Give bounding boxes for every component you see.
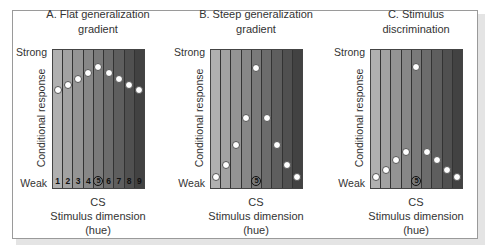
hue-stripe: [371, 50, 381, 188]
data-point: [64, 81, 72, 89]
hue-stripe: [272, 50, 282, 188]
hue-stripe: 6: [104, 50, 114, 188]
cs-marker: 5: [411, 176, 421, 186]
y-axis-label: Conditional response: [353, 53, 365, 183]
hue-stripe: 2: [63, 50, 73, 188]
hue-stripe: 1: [53, 50, 63, 188]
data-point: [115, 75, 123, 83]
hue-stripe: 8: [125, 50, 135, 188]
x-label-hue: (hue): [346, 223, 486, 237]
data-point: [443, 166, 451, 174]
x-label-cs: CS: [28, 195, 168, 209]
panel-title-line-2: gradient: [186, 22, 326, 37]
hue-stripe: 3: [73, 50, 83, 188]
stimulus-number: 8: [125, 176, 134, 186]
x-label-hue: (hue): [186, 223, 326, 237]
panel-title: A. Flat generalizationgradient: [28, 7, 168, 37]
hue-stripe: [422, 50, 432, 188]
hue-stripe: [432, 50, 442, 188]
hue-stripe: [443, 50, 453, 188]
x-label-hue: (hue): [28, 223, 168, 237]
stimulus-number: 7: [114, 176, 123, 186]
stimulus-number: 9: [135, 176, 144, 186]
cs-marker: 5: [251, 176, 261, 186]
x-label-dimension: Stimulus dimension: [28, 209, 168, 223]
data-point: [433, 156, 441, 164]
data-point: [293, 173, 301, 181]
data-point: [402, 148, 410, 156]
panel-title-line-1: A. Flat generalization: [28, 7, 168, 22]
hue-stripe: [283, 50, 293, 188]
data-point: [222, 161, 230, 169]
hue-stripe: [453, 50, 462, 188]
plot-area: 5: [370, 49, 463, 189]
stimulus-number: 1: [53, 176, 62, 186]
plot-area: 123456789: [52, 49, 145, 189]
x-label-cs: CS: [186, 195, 326, 209]
data-point: [242, 114, 250, 122]
hue-stripe: 5: [252, 50, 262, 188]
data-point: [423, 148, 431, 156]
y-axis-label: Conditional response: [35, 53, 47, 183]
hue-stripe: 5: [94, 50, 104, 188]
stimulus-number: 3: [73, 176, 82, 186]
panel-title-line-2: gradient: [28, 22, 168, 37]
panel-title-line-1: B. Steep generalization: [186, 7, 326, 22]
data-point: [283, 161, 291, 169]
data-point: [105, 69, 113, 77]
hue-stripe: [221, 50, 231, 188]
hue-stripe: [391, 50, 401, 188]
hue-stripe: [402, 50, 412, 188]
panel-title-line-2: discrimination: [346, 22, 486, 37]
plot-area: 5: [210, 49, 303, 189]
hue-stripe: [262, 50, 272, 188]
x-label-dimension: Stimulus dimension: [186, 209, 326, 223]
data-point: [263, 114, 271, 122]
hue-stripe: 4: [84, 50, 94, 188]
hue-stripe: [231, 50, 241, 188]
data-point: [212, 173, 220, 181]
data-point: [232, 141, 240, 149]
hue-stripe: 9: [135, 50, 144, 188]
data-point: [125, 81, 133, 89]
stimulus-number: 4: [84, 176, 93, 186]
cs-marker: 5: [93, 176, 103, 186]
data-point: [372, 173, 380, 181]
data-point: [412, 63, 420, 71]
hue-stripe: 5: [412, 50, 422, 188]
data-point: [382, 166, 390, 174]
hue-stripe: [381, 50, 391, 188]
panel-title-line-1: C. Stimulus: [346, 7, 486, 22]
data-point: [273, 141, 281, 149]
stimulus-number: 6: [104, 176, 113, 186]
hue-stripe: 7: [114, 50, 124, 188]
hue-stripe: [211, 50, 221, 188]
data-point: [252, 64, 260, 72]
y-axis-label: Conditional response: [193, 53, 205, 183]
stimulus-number: 2: [63, 176, 72, 186]
data-point: [84, 69, 92, 77]
hue-stripe: [293, 50, 302, 188]
x-label-dimension: Stimulus dimension: [346, 209, 486, 223]
panel-title: C. Stimulusdiscrimination: [346, 7, 486, 37]
panel-title: B. Steep generalizationgradient: [186, 7, 326, 37]
data-point: [54, 86, 62, 94]
data-point: [74, 75, 82, 83]
data-point: [453, 173, 461, 181]
data-point: [392, 156, 400, 164]
hue-stripe: [242, 50, 252, 188]
x-label-cs: CS: [346, 195, 486, 209]
data-point: [135, 86, 143, 94]
data-point: [94, 63, 102, 71]
